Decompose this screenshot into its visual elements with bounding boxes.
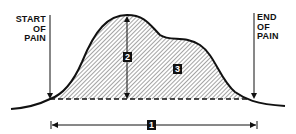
start-of-pain-label: START OF PAIN [14, 15, 46, 44]
area-badge: 3 [173, 64, 182, 74]
end-of-pain-label: END OF PAIN [257, 13, 293, 42]
end-label-line3: PAIN [257, 32, 293, 42]
duration-badge: 1 [147, 120, 156, 130]
start-label-line3: PAIN [14, 34, 46, 44]
peak-intensity-badge: 2 [123, 52, 132, 62]
pain-area-fill [50, 15, 250, 99]
